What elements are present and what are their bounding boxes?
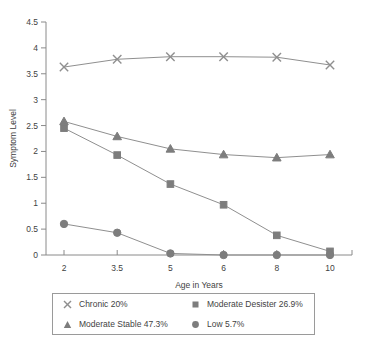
marker-square bbox=[61, 125, 68, 132]
y-tick-label: 3 bbox=[33, 95, 38, 105]
y-tick-label: 4 bbox=[33, 43, 38, 53]
legend-item-low: Low 5.7% bbox=[190, 314, 325, 334]
x-tick-label: 2 bbox=[62, 263, 67, 273]
plot-svg: 00.511.522.533.544.523.556810Age in Year… bbox=[0, 0, 367, 290]
chart-legend: Chronic 20% Moderate Desister 26.9% Mode… bbox=[52, 293, 315, 335]
marker-circle bbox=[114, 229, 121, 236]
y-tick-label: 1.5 bbox=[26, 172, 38, 182]
legend-label-moderate-desister: Moderate Desister 26.9% bbox=[207, 299, 303, 309]
series-line-2 bbox=[64, 121, 330, 157]
legend-item-moderate-desister: Moderate Desister 26.9% bbox=[190, 294, 325, 314]
plot-area: 00.511.522.533.544.523.556810Age in Year… bbox=[0, 0, 367, 290]
y-tick-label: 0.5 bbox=[26, 224, 38, 234]
legend-label-low: Low 5.7% bbox=[207, 319, 244, 329]
triangle-marker-icon bbox=[62, 319, 73, 330]
legend-item-chronic: Chronic 20% bbox=[62, 294, 190, 314]
y-tick-label: 4.5 bbox=[26, 17, 38, 27]
y-tick-label: 2.5 bbox=[26, 121, 38, 131]
marker-triangle bbox=[60, 117, 69, 125]
series-line-0 bbox=[64, 57, 330, 67]
x-axis-title: Age in Years bbox=[175, 280, 223, 290]
marker-circle bbox=[326, 251, 333, 258]
x-tick-label: 5 bbox=[168, 263, 173, 273]
legend-label-moderate-stable: Moderate Stable 47.3% bbox=[79, 319, 168, 329]
y-axis-title: Symptom Level bbox=[8, 109, 18, 168]
square-marker-icon bbox=[190, 299, 201, 310]
symptom-level-line-chart: 00.511.522.533.544.523.556810Age in Year… bbox=[0, 0, 367, 342]
y-tick-label: 1 bbox=[33, 198, 38, 208]
marker-circle bbox=[273, 251, 280, 258]
marker-square bbox=[167, 181, 174, 188]
x-tick-label: 6 bbox=[221, 263, 226, 273]
legend-label-chronic: Chronic 20% bbox=[79, 299, 128, 309]
marker-circle bbox=[220, 251, 227, 258]
marker-square bbox=[220, 201, 227, 208]
y-tick-label: 2 bbox=[33, 146, 38, 156]
marker-square bbox=[274, 232, 281, 239]
circle-marker-icon bbox=[190, 319, 201, 330]
x-tick-label: 3.5 bbox=[111, 263, 123, 273]
x-tick-label: 10 bbox=[325, 263, 335, 273]
marker-square bbox=[114, 152, 121, 159]
y-tick-label: 3.5 bbox=[26, 69, 38, 79]
x-marker-icon bbox=[62, 299, 73, 310]
series-line-1 bbox=[64, 128, 330, 251]
y-tick-label: 0 bbox=[33, 250, 38, 260]
marker-circle bbox=[167, 250, 174, 257]
marker-triangle bbox=[326, 150, 335, 158]
x-tick-label: 8 bbox=[274, 263, 279, 273]
marker-circle bbox=[60, 220, 67, 227]
legend-item-moderate-stable: Moderate Stable 47.3% bbox=[62, 314, 190, 334]
